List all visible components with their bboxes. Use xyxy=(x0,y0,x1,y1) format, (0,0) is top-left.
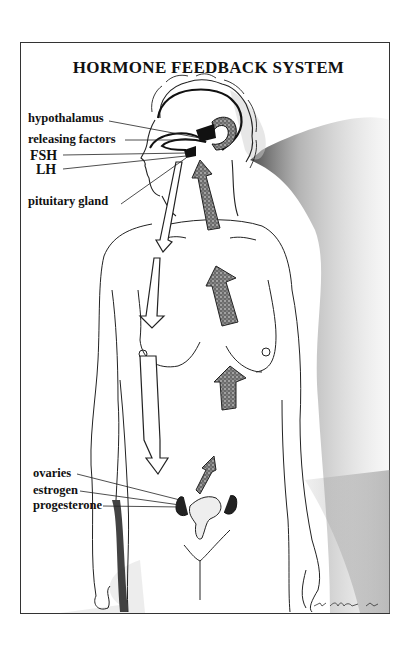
head-outline xyxy=(141,74,257,216)
down-arrow-3 xyxy=(140,356,168,474)
body-outline xyxy=(91,220,320,612)
label-lh: LH xyxy=(36,162,56,178)
up-arrow-3 xyxy=(214,366,246,410)
down-arrow-1 xyxy=(156,162,182,252)
up-arrow-2 xyxy=(206,266,238,326)
up-arrows xyxy=(192,160,246,494)
up-arrow-4 xyxy=(196,456,216,494)
up-arrow-1 xyxy=(192,160,220,230)
label-releasing-factors: releasing factors xyxy=(28,132,116,147)
figure-illustration xyxy=(0,0,417,654)
label-progesterone: progesterone xyxy=(33,498,102,513)
down-arrow-2 xyxy=(140,258,164,328)
label-hypothalamus: hypothalamus xyxy=(28,111,104,126)
label-pituitary-gland: pituitary gland xyxy=(28,194,108,209)
label-ovaries: ovaries xyxy=(33,466,71,481)
down-arrows xyxy=(140,162,182,474)
label-estrogen: estrogen xyxy=(33,483,78,498)
